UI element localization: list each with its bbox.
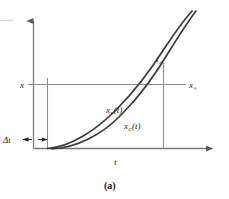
x-infinity-label: x∞ (188, 80, 198, 91)
curve-label-xc-base: x (123, 121, 128, 131)
x-axis-label: t (114, 157, 117, 167)
x-infinity-base: x (188, 80, 193, 90)
curve-label-xv-base: x (105, 105, 110, 115)
curve-xv (48, 11, 193, 149)
figure-caption: (a) (104, 180, 116, 192)
delta-t-label: Δt (2, 135, 11, 145)
y-axis-label: x (19, 80, 24, 90)
plot-canvas: x t Δt t∞ x∞ xV(t) xC(t) (a) (0, 0, 229, 199)
x-infinity-subscript: ∞ (194, 86, 198, 91)
figure-panel-a: x t Δt t∞ x∞ xV(t) xC(t) (a) (0, 0, 229, 199)
curve-label-xc: xC(t) (123, 121, 140, 132)
curve-label-xc-arg: (t) (132, 121, 141, 131)
curve-label-xv-arg: (t) (114, 105, 123, 115)
curve-label-xv: xV(t) (105, 105, 122, 116)
t-infinity-subscript: ∞ (159, 60, 163, 65)
